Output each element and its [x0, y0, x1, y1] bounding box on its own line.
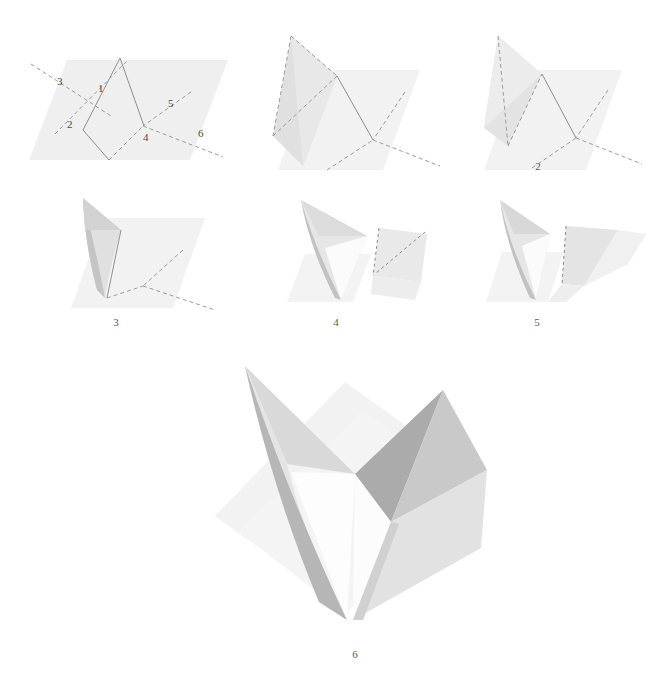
crease-number-2: 2: [67, 118, 73, 130]
crease-number-6: 6: [198, 127, 204, 139]
crease-number-4: 4: [143, 131, 149, 143]
panel-step-6: [195, 352, 485, 642]
panel-step-4: [275, 190, 465, 315]
paper-right-flap: [373, 228, 427, 282]
step-label-5: 5: [517, 316, 557, 328]
panel-step-5: [478, 190, 658, 315]
panel-step-3: [55, 190, 245, 315]
crease-number-5: 5: [168, 97, 174, 109]
step-label-2: 2: [518, 160, 558, 172]
step-label-4: 4: [316, 316, 356, 328]
crease-number-1: 1: [98, 82, 104, 94]
paper-right-wing-lower: [548, 284, 584, 302]
panel-step-2: [462, 18, 657, 183]
panel-crease-pattern: 1 2 3 4 5 6: [10, 20, 250, 170]
step-label-6: 6: [335, 648, 375, 660]
crease-number-3: 3: [57, 75, 63, 87]
origami-figure-sheet: 1 2 3 4 5 6: [0, 0, 666, 695]
panel-step-1: [255, 18, 455, 183]
step-label-3: 3: [96, 316, 136, 328]
